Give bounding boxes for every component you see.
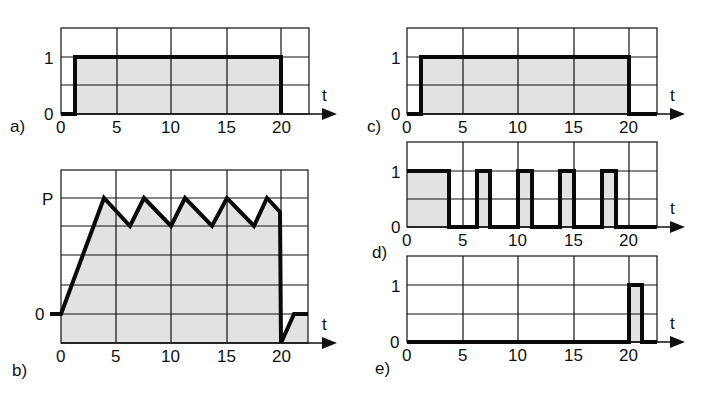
- chart-d-x-tick-5: 5: [458, 231, 467, 250]
- chart-e-x-tick-10: 10: [508, 346, 527, 365]
- chart-a: a) 0 1 t 0 5 10 15 20: [10, 28, 337, 137]
- chart-d-x-label: t: [670, 199, 675, 218]
- chart-c-x-tick-10: 10: [508, 118, 527, 137]
- chart-a-y-tick-1: 1: [44, 49, 53, 68]
- chart-c-x-tick-20: 20: [619, 118, 638, 137]
- chart-b-panel-label: b): [12, 361, 27, 380]
- chart-e-x-tick-5: 5: [458, 346, 467, 365]
- chart-a-y-tick-0: 0: [44, 105, 53, 124]
- chart-c-panel-label: c): [367, 117, 381, 136]
- chart-c-x-tick-15: 15: [564, 118, 583, 137]
- chart-d-x-tick-10: 10: [508, 231, 527, 250]
- chart-b-x-tick-5: 5: [111, 347, 120, 366]
- chart-a-x-tick-20: 20: [272, 118, 291, 137]
- figure: a) 0 1 t 0 5 10 15 20 b) 0 P t 0 5: [0, 0, 703, 394]
- chart-e-y-tick-1: 1: [391, 277, 400, 296]
- chart-b-x-tick-10: 10: [161, 347, 180, 366]
- chart-c-axis-arrow-icon: [670, 108, 685, 120]
- chart-b-y-tick-P: P: [42, 190, 53, 209]
- chart-b-axis-arrow-icon: [322, 337, 337, 349]
- chart-c-x-tick-5: 5: [458, 118, 467, 137]
- chart-b-x-label: t: [322, 315, 327, 334]
- chart-e-y-tick-0: 0: [390, 333, 399, 352]
- chart-b-x-tick-15: 15: [217, 347, 236, 366]
- chart-e-panel-label: e): [375, 359, 390, 378]
- chart-e-x-label: t: [670, 314, 675, 333]
- chart-a-x-label: t: [322, 86, 327, 105]
- chart-d: d) 0 1 t 0 5 10 15 20: [372, 142, 685, 262]
- chart-d-axis-arrow-icon: [670, 221, 685, 233]
- chart-e: e) 0 1 t 0 5 10 15 20: [375, 256, 685, 378]
- chart-a-panel-label: a): [10, 117, 25, 136]
- chart-e-x-tick-15: 15: [564, 346, 583, 365]
- chart-a-x-tick-15: 15: [217, 118, 236, 137]
- chart-a-axis-arrow-icon: [322, 108, 337, 120]
- chart-a-x-tick-10: 10: [161, 118, 180, 137]
- chart-d-y-tick-0: 0: [391, 218, 400, 237]
- chart-c: c) 0 1 t 0 5 10 15 20: [367, 28, 685, 137]
- chart-c-y-tick-0: 0: [391, 105, 400, 124]
- chart-c-y-tick-1: 1: [391, 49, 400, 68]
- chart-c-x-label: t: [670, 86, 675, 105]
- chart-e-grid: [407, 256, 657, 342]
- chart-b-y-tick-0: 0: [35, 305, 44, 324]
- chart-b-x-tick-20: 20: [272, 347, 291, 366]
- chart-a-x-tick-5: 5: [112, 118, 121, 137]
- chart-b: b) 0 P t 0 5 10 15 20: [12, 170, 337, 380]
- chart-a-x-tick-0: 0: [56, 118, 65, 137]
- chart-d-x-tick-20: 20: [619, 231, 638, 250]
- chart-d-y-tick-1: 1: [391, 163, 400, 182]
- chart-d-x-tick-15: 15: [564, 231, 583, 250]
- chart-d-panel-label: d): [372, 243, 387, 262]
- chart-e-axis-arrow-icon: [670, 336, 685, 348]
- chart-d-x-tick-0: 0: [402, 231, 411, 250]
- chart-c-x-tick-0: 0: [402, 118, 411, 137]
- chart-e-x-tick-20: 20: [619, 346, 638, 365]
- chart-b-x-tick-0: 0: [56, 347, 65, 366]
- chart-e-x-tick-0: 0: [402, 346, 411, 365]
